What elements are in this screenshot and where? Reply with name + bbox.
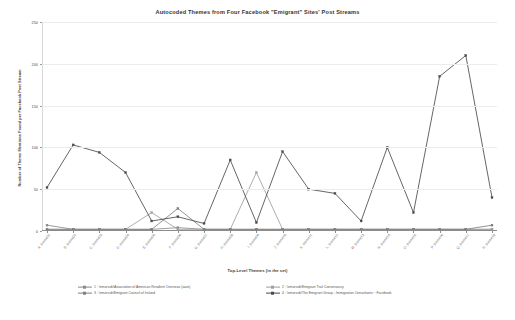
x-tick-label: Q. theme17 — [455, 233, 470, 250]
y-tick-mark — [40, 64, 42, 65]
x-tick-label: D. theme04 — [115, 233, 129, 250]
legend-swatch-icon — [78, 285, 92, 289]
legend-label: 2 : \emorsub\Emigrant Trail Conservancy — [282, 285, 344, 289]
data-point-marker — [282, 151, 284, 153]
series-line-2 — [47, 172, 492, 229]
data-point-marker — [334, 192, 336, 194]
data-point-marker — [465, 54, 467, 56]
y-tick-label: 50 — [34, 187, 38, 192]
data-point-marker — [46, 224, 48, 226]
legend-swatch-icon — [78, 291, 92, 295]
chart-legend: 1 : \emorsub\Association of American Res… — [0, 285, 515, 295]
y-tick-label: 100 — [32, 145, 39, 150]
data-point-marker — [177, 207, 179, 209]
gridline — [42, 189, 497, 190]
x-tick-label: K. theme11 — [299, 233, 313, 250]
legend-item-2[interactable]: 2 : \emorsub\Emigrant Trail Conservancy — [266, 285, 438, 289]
x-tick-label: A. theme01 — [37, 233, 51, 250]
data-point-marker — [177, 216, 179, 218]
x-axis-title: Top-Level Themes (in the set) — [0, 268, 515, 273]
chart-title: Autocoded Themes from Four Facebook "Emi… — [0, 9, 515, 15]
data-point-marker — [229, 159, 231, 161]
x-tick-label: B. theme02 — [63, 233, 77, 250]
data-point-marker — [412, 212, 414, 214]
data-point-marker — [491, 224, 493, 226]
y-tick-mark — [40, 231, 42, 232]
gridline — [42, 106, 497, 107]
y-tick-label: 150 — [32, 103, 39, 108]
legend-label: 4 : \emorsub\The Emigrant Group - Immigr… — [282, 291, 392, 295]
y-tick-mark — [40, 189, 42, 190]
x-tick-label: O. theme15 — [403, 233, 418, 250]
legend-item-4[interactable]: 4 : \emorsub\The Emigrant Group - Immigr… — [266, 291, 438, 295]
x-tick-label: G. theme07 — [194, 233, 209, 250]
legend-item-1[interactable]: 1 : \emorsub\Association of American Res… — [78, 285, 250, 289]
data-point-marker — [72, 144, 74, 146]
series-line-3 — [47, 208, 492, 229]
y-tick-mark — [40, 147, 42, 148]
x-tick-label: N. theme14 — [377, 233, 391, 250]
y-tick-label: 250 — [32, 20, 39, 25]
y-tick-mark — [40, 106, 42, 107]
legend-label: 3 : \emorsub\Emigrant Council of Ireland — [94, 291, 155, 295]
y-tick-label: 0 — [36, 229, 38, 234]
data-point-marker — [98, 151, 100, 153]
x-tick-label: L. theme12 — [325, 233, 339, 249]
gridline — [42, 64, 497, 65]
y-tick-label: 200 — [32, 61, 39, 66]
x-tick-label: J. theme10 — [273, 233, 287, 249]
x-tick-label: I. theme09 — [247, 233, 260, 249]
gridline — [42, 147, 497, 148]
legend-swatch-icon — [266, 291, 280, 295]
x-tick-label: C. theme03 — [89, 233, 103, 250]
data-point-marker — [439, 75, 441, 77]
plot-area: 050100150200250 — [42, 22, 497, 231]
series-line-4 — [47, 55, 492, 223]
data-point-marker — [255, 222, 257, 224]
series-line-1 — [47, 225, 492, 229]
y-axis-title: Number of Theme Mentions Found per Faceb… — [17, 69, 22, 186]
x-tick-label: F. theme06 — [168, 233, 182, 249]
x-axis-tick-labels: A. theme01B. theme02C. theme03D. theme04… — [42, 233, 497, 265]
y-tick-mark — [40, 22, 42, 23]
data-point-marker — [151, 212, 153, 214]
legend-item-3[interactable]: 3 : \emorsub\Emigrant Council of Ireland — [78, 291, 250, 295]
x-tick-label: R. theme18 — [482, 233, 496, 250]
gridline — [42, 22, 497, 23]
legend-label: 1 : \emorsub\Association of American Res… — [94, 285, 190, 289]
data-point-marker — [125, 171, 127, 173]
series-lines — [42, 22, 497, 231]
chart-root: Autocoded Themes from Four Facebook "Emi… — [0, 0, 515, 320]
x-tick-label: H. theme08 — [220, 233, 234, 250]
x-tick-label: P. theme16 — [430, 233, 444, 249]
data-point-marker — [360, 220, 362, 222]
data-point-marker — [491, 197, 493, 199]
x-tick-label: E. theme05 — [142, 233, 156, 250]
data-point-marker — [255, 171, 257, 173]
x-tick-label: M. theme13 — [351, 233, 366, 250]
data-point-marker — [203, 222, 205, 224]
data-point-marker — [151, 220, 153, 222]
legend-swatch-icon — [266, 285, 280, 289]
